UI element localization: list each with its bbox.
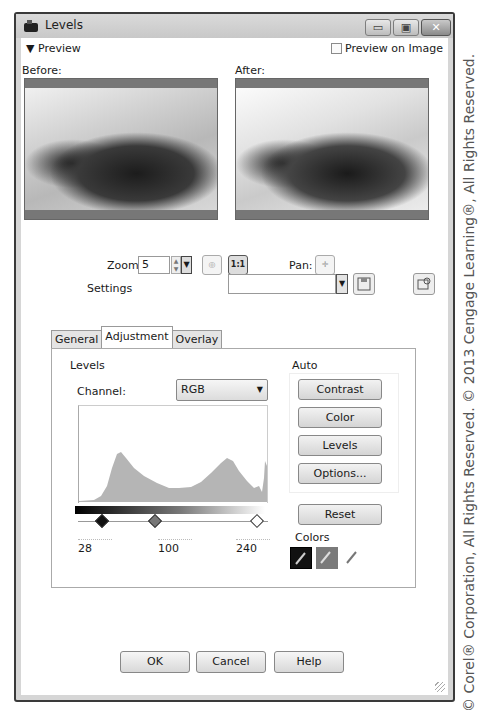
pan-label: Pan: <box>289 259 313 272</box>
auto-group-title: Auto <box>292 359 318 372</box>
after-image <box>236 88 428 210</box>
before-image <box>25 88 217 210</box>
minimize-button[interactable]: ▭ <box>365 19 391 36</box>
maximize-icon: ▣ <box>394 20 418 35</box>
preview-toggle[interactable]: ▼ Preview <box>26 42 81 55</box>
white-point-eyedropper[interactable] <box>342 547 364 569</box>
tab-overlay[interactable]: Overlay <box>172 330 223 348</box>
settings-dropdown-button[interactable]: ▼ <box>336 274 348 294</box>
close-icon: ✕ <box>422 20 450 35</box>
copyright-notice: © Corel® Corporation, All Rights Reserve… <box>461 22 477 712</box>
pan-button[interactable]: ✛ <box>315 255 335 275</box>
zoom-pan-row: Zoom: 5 ▲▼ ▼ ◎ 1:1 Pan: ✛ <box>21 254 448 276</box>
auto-levels-button[interactable]: Levels <box>298 435 382 456</box>
tab-strip: General Adjustment Overlay <box>51 328 221 348</box>
help-button[interactable]: Help <box>274 651 344 673</box>
eyedropper-icon <box>342 547 362 567</box>
zoom-input[interactable]: 5 <box>138 256 170 274</box>
white-input-field[interactable]: 240 <box>236 539 270 559</box>
gamma-handle[interactable] <box>148 514 162 528</box>
input-gradient-bar <box>75 506 265 514</box>
auto-color-button[interactable]: Color <box>298 407 382 428</box>
reset-preset-button[interactable] <box>413 273 435 295</box>
colors-group-title: Colors <box>295 531 329 544</box>
levels-group-title: Levels <box>70 359 105 372</box>
title-bar[interactable]: Levels ▭ ▣ ✕ <box>16 14 453 38</box>
preview-toggle-label: Preview <box>38 42 81 55</box>
auto-options-button[interactable]: Options... <box>298 463 382 484</box>
zoom-actual-size-button[interactable]: 1:1 <box>228 255 248 275</box>
eyedropper-icon <box>316 547 336 567</box>
zoom-spinner[interactable]: ▲▼ <box>171 256 181 274</box>
after-label: After: <box>235 64 265 77</box>
histogram-graph <box>79 406 267 502</box>
fit-icon: ◎ <box>209 260 216 269</box>
histogram <box>78 405 268 503</box>
zoom-dropdown-button[interactable]: ▼ <box>181 256 192 274</box>
tab-general[interactable]: General <box>51 330 102 348</box>
levels-dialog: Levels ▭ ▣ ✕ ▼ Preview Preview on Image … <box>14 12 455 702</box>
reset-button[interactable]: Reset <box>298 504 382 525</box>
resize-grip[interactable] <box>435 682 445 692</box>
minimize-icon: ▭ <box>366 20 390 35</box>
white-point-handle[interactable] <box>250 514 264 528</box>
channel-value: RGB <box>181 383 205 396</box>
floppy-disk-icon <box>354 274 374 294</box>
ok-button[interactable]: OK <box>120 651 190 673</box>
channel-label: Channel: <box>77 385 126 398</box>
settings-label: Settings <box>87 282 132 295</box>
pan-crosshair-icon: ✛ <box>322 260 329 269</box>
gamma-input-field[interactable]: 100 <box>158 539 192 559</box>
adjustment-panel: Levels Channel: RGB ▼ 28 100 240 Auto Co… <box>51 348 416 588</box>
black-point-eyedropper[interactable] <box>290 547 312 569</box>
triangle-down-icon: ▼ <box>26 42 34 55</box>
dialog-body: ▼ Preview Preview on Image Before: After… <box>21 38 448 695</box>
save-preset-button[interactable] <box>353 273 375 295</box>
black-input-field[interactable]: 28 <box>78 539 112 559</box>
black-point-handle[interactable] <box>95 514 109 528</box>
before-label: Before: <box>22 64 62 77</box>
preview-on-image-checkbox[interactable]: Preview on Image <box>331 42 443 55</box>
channel-select[interactable]: RGB ▼ <box>176 379 268 401</box>
auto-contrast-button[interactable]: Contrast <box>298 379 382 400</box>
gray-point-eyedropper[interactable] <box>316 547 338 569</box>
after-preview[interactable] <box>235 78 429 220</box>
app-icon <box>23 20 39 32</box>
chevron-down-icon: ▼ <box>339 279 345 288</box>
preview-on-image-label: Preview on Image <box>345 42 443 55</box>
preset-icon <box>414 274 434 294</box>
tab-adjustment[interactable]: Adjustment <box>101 326 172 348</box>
chevron-down-icon: ▼ <box>257 380 263 400</box>
eyedropper-icon <box>291 548 311 568</box>
settings-combo[interactable] <box>228 274 336 294</box>
checkbox-box[interactable] <box>331 43 342 54</box>
one-to-one-icon: 1:1 <box>231 260 245 269</box>
close-button[interactable]: ✕ <box>421 19 451 36</box>
zoom-to-fit-button[interactable]: ◎ <box>202 255 222 275</box>
maximize-button[interactable]: ▣ <box>393 19 419 36</box>
window-title: Levels <box>45 18 83 32</box>
before-preview[interactable] <box>24 78 218 220</box>
cancel-button[interactable]: Cancel <box>196 651 266 673</box>
